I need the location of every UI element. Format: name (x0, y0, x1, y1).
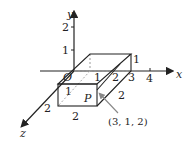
x-tick-2: 2 (112, 71, 119, 84)
y-tick-1: 1 (62, 44, 69, 57)
box-height-label: 1 (133, 53, 140, 66)
box-depth-label: 2 (118, 89, 125, 102)
point-pointer-arrow (100, 94, 118, 113)
z-tick-1: 1 (65, 85, 72, 98)
point-coordinates: (3, 1, 2) (108, 116, 148, 127)
z-tick-2: 2 (44, 102, 51, 115)
box-width-label: 2 (72, 110, 79, 123)
x-axis-label: x (176, 68, 183, 81)
x-tick-4: 4 (146, 72, 153, 85)
x-tick-3: 3 (128, 71, 135, 84)
diagram-canvas: y 2 1 x O 1 2 3 4 1 1 2 2 2 P (3, 1, 2) … (0, 0, 187, 144)
coordinate-figure: y 2 1 x O 1 2 3 4 1 1 2 2 2 P (3, 1, 2) … (0, 0, 187, 144)
x-tick-1: 1 (94, 71, 101, 84)
point-label: P (83, 92, 92, 105)
z-axis-label: z (19, 127, 26, 140)
y-tick-2: 2 (62, 21, 69, 34)
y-axis-label: y (66, 8, 74, 21)
origin-label: O (63, 71, 72, 84)
